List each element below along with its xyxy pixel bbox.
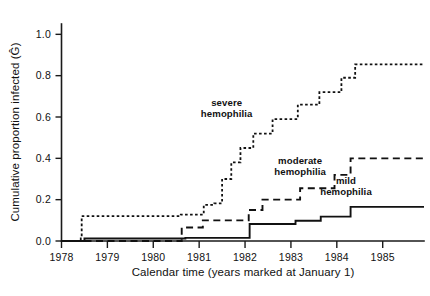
x-tick-label-1983: 1983 bbox=[279, 251, 303, 263]
x-tick-label-1980: 1980 bbox=[141, 251, 165, 263]
x-tick-label-1979: 1979 bbox=[95, 251, 119, 263]
y-tick-label-1.0: 1.0 bbox=[36, 28, 51, 40]
annotation-label-line1: moderate bbox=[278, 155, 322, 166]
x-tick-label-1982: 1982 bbox=[233, 251, 257, 263]
x-axis-title-text: Calendar time (years marked at January 1… bbox=[132, 266, 355, 278]
annotation-label-line2: hemophilia bbox=[201, 108, 253, 119]
x-tick-label-1985: 1985 bbox=[371, 251, 395, 263]
annotation-moderate: moderatehemophilia bbox=[274, 155, 326, 177]
cumulative-infection-chart: 0.00.20.40.60.81.0 197819791980198119821… bbox=[0, 0, 430, 296]
annotation-label-line2: hemophilia bbox=[274, 166, 326, 177]
x-tick-label-1978: 1978 bbox=[49, 251, 73, 263]
figure-container: 0.00.20.40.60.81.0 197819791980198119821… bbox=[0, 0, 430, 296]
y-tick-label-0.4: 0.4 bbox=[36, 152, 51, 164]
y-axis-title: Cumulative proportion infected (Ĝ) bbox=[9, 42, 21, 221]
annotation-label-line1: severe bbox=[211, 97, 242, 108]
y-tick-label-0.8: 0.8 bbox=[36, 69, 51, 81]
y-tick-label-0.6: 0.6 bbox=[36, 111, 51, 123]
annotation-label-line2: hemophilia bbox=[320, 186, 372, 197]
y-tick-label-0.2: 0.2 bbox=[36, 193, 51, 205]
annotation-label-line1: mild bbox=[336, 175, 356, 186]
x-tick-label-1981: 1981 bbox=[187, 251, 211, 263]
x-tick-label-1984: 1984 bbox=[325, 251, 349, 263]
y-axis-title-text: Cumulative proportion infected (Ĝ) bbox=[9, 42, 21, 221]
y-tick-label-0.0: 0.0 bbox=[36, 235, 51, 247]
